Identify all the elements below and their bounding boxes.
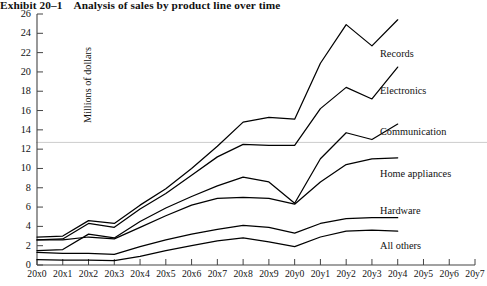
y-tick-label: 26 (5, 9, 31, 19)
y-tick-label: 2 (5, 241, 31, 251)
y-axis-ticks (37, 14, 43, 265)
x-tick-label: 20y7 (455, 269, 487, 279)
series-line-home-appliances (37, 158, 398, 240)
series-label-home-appliances: Home appliances (380, 168, 451, 179)
series-label-hardware: Hardware (380, 205, 421, 216)
y-tick-label: 6 (5, 202, 31, 212)
y-tick-label: 20 (5, 67, 31, 77)
y-tick-label: 12 (5, 144, 31, 154)
y-tick-label: 8 (5, 183, 31, 193)
series-line-records (37, 20, 398, 237)
plot-area: Millions of dollars 02468101214161820222… (37, 14, 475, 265)
series-paths (37, 20, 398, 261)
series-label-communication: Communication (380, 126, 446, 137)
series-label-records: Records (380, 48, 414, 59)
chart-title: Exhibit 20–1 Analysis of sales by produc… (0, 0, 487, 13)
y-tick-label: 22 (5, 48, 31, 58)
series-label-all-others: All others (380, 240, 421, 251)
y-tick-label: 18 (5, 86, 31, 96)
series-line-electronics (37, 67, 398, 240)
series-label-electronics: Electronics (380, 85, 426, 96)
series-line-hardware (37, 218, 398, 255)
y-tick-label: 10 (5, 163, 31, 173)
chart-figure: Exhibit 20–1 Analysis of sales by produc… (0, 0, 487, 286)
y-tick-label: 14 (5, 125, 31, 135)
y-tick-label: 4 (5, 221, 31, 231)
y-tick-label: 24 (5, 28, 31, 38)
y-tick-label: 16 (5, 106, 31, 116)
